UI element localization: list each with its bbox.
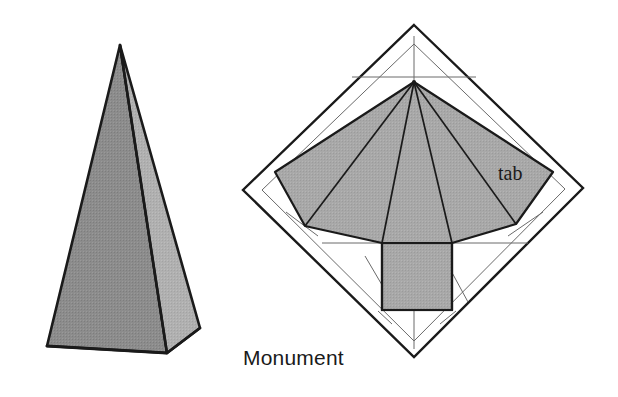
monument-label: Monument (243, 346, 344, 369)
figure-root: tab Monument (0, 0, 618, 397)
tab-label: tab (498, 162, 522, 184)
square-base-panel (382, 243, 452, 310)
apex-point (412, 80, 416, 84)
illustration-canvas: tab Monument (0, 0, 618, 397)
